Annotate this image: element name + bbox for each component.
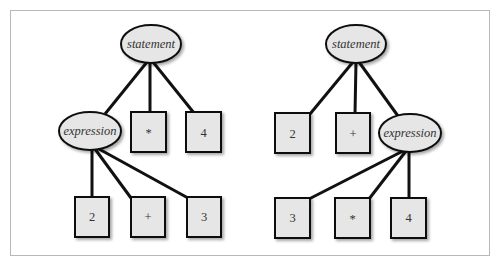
node-label: * — [349, 212, 355, 226]
right-tree: statement 2 + expression 3 * 4 — [275, 25, 441, 238]
node-label: 2 — [289, 127, 295, 141]
node-label: 2 — [89, 210, 95, 224]
node-label: 4 — [405, 211, 412, 225]
left-tree: statement expression * 4 2 + 3 — [59, 25, 221, 237]
node-label: 3 — [289, 211, 295, 225]
node-label: + — [349, 127, 356, 141]
node-label: 3 — [201, 210, 207, 224]
node-label: + — [144, 210, 151, 224]
edge-statement-expression — [359, 62, 398, 116]
node-label: statement — [127, 37, 175, 51]
parse-tree-diagram: statement expression * 4 2 + 3 statem — [0, 0, 502, 265]
edge-statement-four — [153, 62, 194, 113]
node-label: expression — [384, 126, 437, 140]
node-label: statement — [332, 37, 380, 51]
node-label: * — [145, 126, 151, 140]
edge-statement-plus — [355, 62, 356, 114]
edge-statement-expression — [105, 62, 147, 114]
edge-statement-two — [310, 62, 353, 114]
node-label: expression — [64, 124, 117, 138]
node-label: 4 — [200, 126, 207, 140]
